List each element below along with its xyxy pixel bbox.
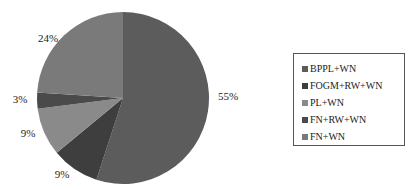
- legend: BPPL+WN FOGM+RW+WN PL+WN FN+RW+WN FN+WN: [293, 53, 405, 146]
- legend-swatch: [302, 134, 308, 140]
- legend-item: FOGM+RW+WN: [302, 77, 404, 94]
- legend-swatch: [302, 100, 308, 106]
- legend-item: BPPL+WN: [302, 60, 404, 77]
- slice-label: 55%: [218, 90, 238, 102]
- slice-label: 3%: [13, 93, 28, 105]
- legend-item: FN+WN: [302, 128, 404, 145]
- pie-slice: [37, 12, 123, 98]
- slice-label: 9%: [21, 127, 36, 139]
- legend-swatch: [302, 117, 308, 123]
- legend-swatch: [302, 66, 308, 72]
- slice-label: 9%: [55, 168, 70, 180]
- pie-chart: 55%9%9%3%24%: [0, 0, 270, 189]
- legend-item: FN+RW+WN: [302, 111, 404, 128]
- legend-swatch: [302, 83, 308, 89]
- legend-item: PL+WN: [302, 94, 404, 111]
- slice-label: 24%: [38, 32, 58, 44]
